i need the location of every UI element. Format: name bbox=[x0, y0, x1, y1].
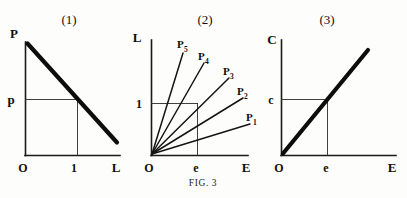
panel-2-ray-label-p5: P 5 bbox=[177, 38, 188, 54]
panel-1-x-tick-label: 1 bbox=[71, 161, 77, 175]
panel-2-ray-label-p3-text: P bbox=[223, 65, 230, 77]
panel-3-y-axis-label: C bbox=[267, 32, 276, 47]
panel-2-ray-label-p2-sub: 2 bbox=[244, 92, 248, 101]
panel-1-y-axis-label: P bbox=[10, 26, 18, 41]
panel-3-x-tick-label: e bbox=[323, 161, 329, 175]
panel-2-y-axis-label: L bbox=[133, 30, 142, 45]
panel-1-title: (1) bbox=[61, 12, 76, 27]
panel-2-ray-label-p5-sub: 5 bbox=[184, 45, 188, 54]
panel-2-ray-label-p4-sub: 4 bbox=[205, 57, 209, 66]
panel-2-y-tick-label: 1 bbox=[136, 97, 142, 111]
panel-2-origin-label: O bbox=[144, 161, 153, 175]
panel-1-origin-label: O bbox=[18, 161, 27, 175]
panel-2-ray-label-p3-sub: 3 bbox=[230, 72, 234, 81]
panel-2-ray-label-p2-text: P bbox=[237, 85, 244, 97]
panel-2-ray-label-p4-text: P bbox=[198, 50, 205, 62]
panel-3-title: (3) bbox=[319, 12, 334, 27]
panel-2-title: (2) bbox=[197, 12, 212, 27]
panel-3-group: (3) C c O e E bbox=[267, 12, 396, 175]
panel-2-x-tick-label: e bbox=[193, 161, 199, 175]
panel-2-ray-label-p5-text: P bbox=[177, 38, 184, 50]
panel-3-origin-label: O bbox=[274, 161, 283, 175]
panel-2-x-axis-label: E bbox=[242, 160, 251, 175]
panel-3-cost-line bbox=[283, 50, 368, 154]
panel-1-demand-line bbox=[28, 44, 118, 143]
figure-svg: (1) P p O 1 L (2) bbox=[0, 0, 407, 198]
panel-1-group: (1) P p O 1 L bbox=[7, 12, 120, 175]
panel-2-ray-label-p1-sub: 1 bbox=[253, 118, 257, 127]
panel-1-x-axis-label: L bbox=[112, 160, 121, 175]
panel-2-ray-label-p1-text: P bbox=[246, 111, 253, 123]
panel-3-x-axis-label: E bbox=[388, 160, 397, 175]
panel-1-y-tick-label: p bbox=[7, 92, 14, 107]
figure-caption: FIG. 3 bbox=[189, 178, 217, 188]
panel-2-group: (2) P 5 P 4 P 3 bbox=[133, 12, 257, 175]
panel-3-y-tick-label: c bbox=[268, 93, 274, 107]
figure-container: (1) P p O 1 L (2) bbox=[0, 0, 407, 198]
